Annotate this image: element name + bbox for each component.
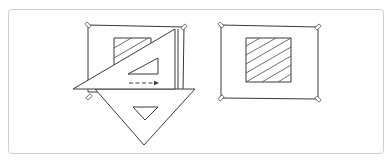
corner-tape-icons-right	[218, 22, 322, 103]
right-panel	[218, 22, 322, 103]
45-set-square	[95, 89, 195, 145]
drafting-diagram	[0, 0, 392, 161]
left-panel	[73, 22, 195, 145]
figure-stage	[0, 0, 392, 161]
hatched-square-right	[246, 38, 291, 82]
drawing-sheet-right	[221, 25, 318, 99]
